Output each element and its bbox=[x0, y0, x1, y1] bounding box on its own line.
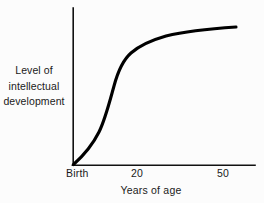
y-axis-label: Level of intellectual development bbox=[2, 63, 66, 110]
y-axis-label-line-1: Level of bbox=[2, 63, 66, 79]
x-tick-label-birth: Birth bbox=[66, 167, 89, 179]
y-axis-label-line-3: development bbox=[2, 94, 66, 110]
x-tick-label-50: 50 bbox=[217, 167, 229, 179]
figure-container: Level of intellectual development Birth … bbox=[0, 0, 264, 203]
x-tick-label-20: 20 bbox=[131, 167, 143, 179]
x-axis-title: Years of age bbox=[110, 184, 192, 196]
y-axis-label-line-2: intellectual bbox=[2, 79, 66, 95]
intellectual-development-curve bbox=[74, 27, 237, 165]
